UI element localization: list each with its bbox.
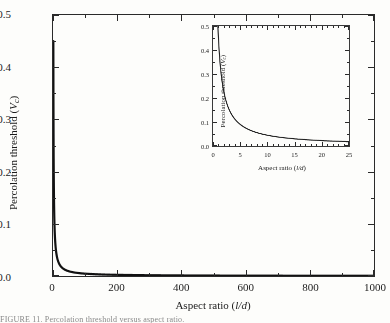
axis-tickmark (300, 144, 301, 146)
inset-y-tick-label: 0.5 (201, 23, 209, 30)
axis-tickmark (333, 26, 334, 28)
axis-tickmark (53, 41, 56, 42)
axis-tickmark (278, 273, 279, 276)
axis-tickmark (117, 15, 118, 18)
axis-tickmark (214, 15, 215, 18)
axis-tickmark (262, 26, 263, 28)
axis-tickmark (85, 15, 86, 18)
axis-tickmark (371, 172, 374, 173)
main-x-axis-label: Aspect ratio (l/d) (175, 299, 250, 311)
axis-tickmark (371, 224, 374, 225)
axis-tickmark (213, 134, 215, 135)
axis-tickmark (310, 273, 311, 276)
axis-tickmark (213, 145, 215, 146)
axis-tickmark (53, 67, 56, 68)
axis-tickmark (53, 198, 56, 199)
inset-y-tick-label: 0.0 (201, 143, 209, 150)
axis-tickmark (371, 15, 374, 16)
main-x-tick-label: 800 (302, 281, 319, 293)
axis-tickmark (85, 273, 86, 276)
axis-tickmark (338, 144, 339, 146)
main-x-tick-label: 1000 (364, 281, 386, 293)
axis-tickmark (213, 50, 215, 51)
axis-tickmark (117, 273, 118, 276)
axis-tickmark (316, 26, 317, 28)
axis-tickmark (371, 41, 374, 42)
axis-tickmark (347, 98, 349, 99)
axis-tickmark (347, 38, 349, 39)
axis-tickmark (149, 15, 150, 18)
inset-plot-curve (213, 26, 349, 146)
axis-tickmark (347, 134, 349, 135)
axis-tickmark (371, 198, 374, 199)
axis-tickmark (53, 93, 56, 94)
inset-y-tick-label: 0.2 (201, 95, 209, 102)
axis-tickmark (267, 144, 268, 146)
axis-tickmark (213, 26, 215, 27)
axis-tickmark (235, 26, 236, 28)
main-x-tick-label: 0 (49, 281, 55, 293)
axis-tickmark (246, 15, 247, 18)
axis-tickmark (327, 144, 328, 146)
axis-tickmark (213, 74, 215, 75)
axis-tickmark (251, 144, 252, 146)
axis-tickmark (229, 26, 230, 28)
axis-tickmark (246, 144, 247, 146)
axis-tickmark (213, 98, 215, 99)
axis-tickmark (322, 26, 323, 28)
axis-tickmark (289, 26, 290, 28)
inset-y-tick-label: 0.4 (201, 47, 209, 54)
axis-tickmark (267, 26, 268, 28)
axis-tickmark (316, 144, 317, 146)
axis-tickmark (240, 144, 241, 146)
inset-x-tick-label: 5 (239, 151, 242, 158)
inset-x-tick-label: 0 (211, 151, 214, 158)
axis-tickmark (347, 62, 349, 63)
axis-tickmark (371, 275, 374, 276)
axis-tickmark (224, 26, 225, 28)
axis-tickmark (257, 26, 258, 28)
figure-caption: FIGURE 11. Percolation threshold versus … (0, 315, 390, 323)
axis-tickmark (278, 15, 279, 18)
axis-tickmark (53, 146, 56, 147)
axis-tickmark (213, 38, 215, 39)
axis-tickmark (300, 26, 301, 28)
axis-tickmark (53, 275, 56, 276)
axis-tickmark (218, 26, 219, 28)
axis-tickmark (246, 26, 247, 28)
axis-tickmark (347, 110, 349, 111)
axis-tickmark (371, 250, 374, 251)
axis-tickmark (327, 26, 328, 28)
axis-tickmark (240, 26, 241, 28)
main-y-axis-label: Percolation threshold (Vc) (7, 48, 21, 258)
axis-tickmark (295, 144, 296, 146)
axis-tickmark (295, 26, 296, 28)
axis-tickmark (181, 273, 182, 276)
axis-tickmark (342, 15, 343, 18)
axis-tickmark (371, 146, 374, 147)
axis-tickmark (284, 144, 285, 146)
inset-x-tick-label: 15 (291, 151, 298, 158)
axis-tickmark (347, 122, 349, 123)
axis-tickmark (251, 26, 252, 28)
axis-tickmark (53, 119, 56, 120)
axis-tickmark (213, 86, 215, 87)
axis-tickmark (347, 145, 349, 146)
axis-tickmark (284, 26, 285, 28)
axis-tickmark (149, 273, 150, 276)
axis-tickmark (311, 26, 312, 28)
axis-tickmark (371, 119, 374, 120)
main-x-tick-label: 200 (108, 281, 125, 293)
inset-y-tick-label: 0.3 (201, 71, 209, 78)
main-x-tick-label: 600 (238, 281, 255, 293)
axis-tickmark (213, 122, 215, 123)
axis-tickmark (257, 144, 258, 146)
axis-tickmark (273, 144, 274, 146)
main-y-tick-label: 0.5 (0, 8, 11, 20)
axis-tickmark (347, 86, 349, 87)
axis-tickmark (371, 67, 374, 68)
axis-tickmark (278, 144, 279, 146)
inset-x-tick-label: 10 (264, 151, 271, 158)
main-x-tick-label: 400 (173, 281, 190, 293)
axis-tickmark (278, 26, 279, 28)
